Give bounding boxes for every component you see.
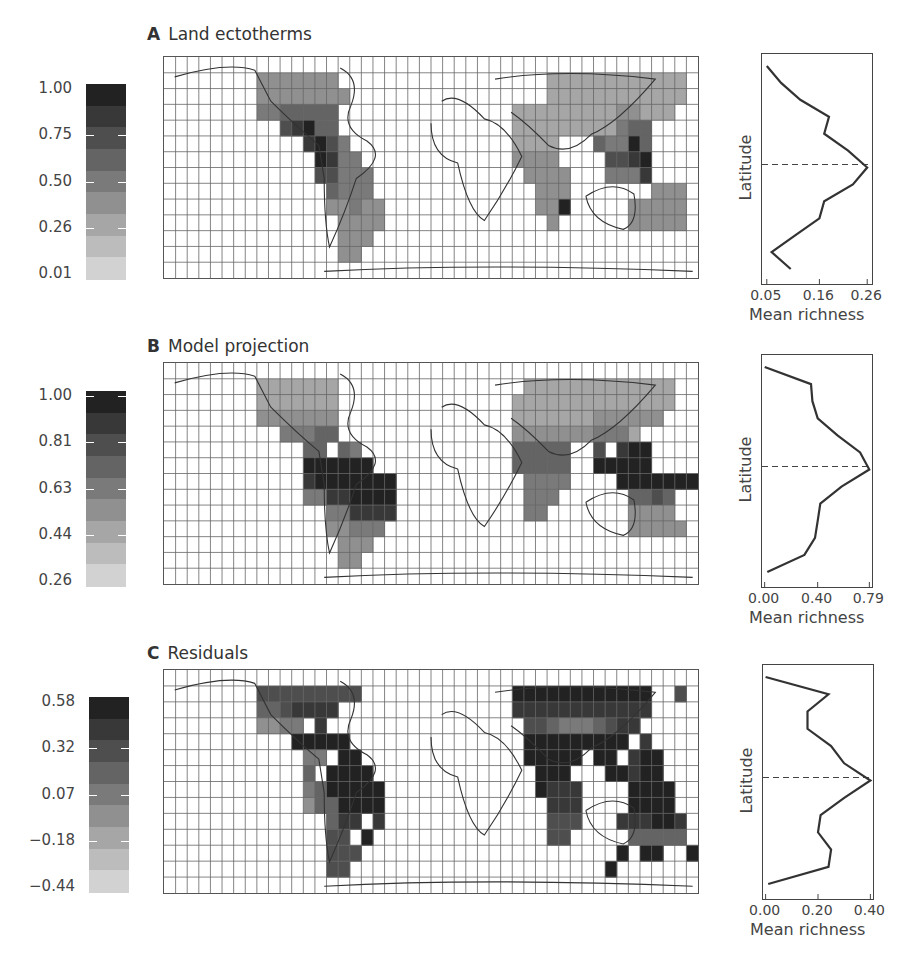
profile-x-tick-label: 0.00 bbox=[748, 590, 779, 606]
colorbar-swatch bbox=[86, 391, 126, 414]
panel-c-title-text: Residuals bbox=[167, 643, 248, 663]
profile-y-axis-label: Latitude bbox=[737, 748, 756, 814]
colorbar-swatch bbox=[89, 719, 129, 742]
colorbar-tick-label: 0.50 bbox=[12, 172, 72, 190]
profile-x-tick-label: 0.05 bbox=[750, 287, 781, 303]
colorbar-swatch bbox=[86, 434, 126, 457]
colorbar-tick bbox=[86, 535, 126, 536]
panel-c-map bbox=[163, 669, 699, 894]
panel-a-profile bbox=[761, 53, 873, 285]
panel-b-letter: B bbox=[147, 336, 160, 356]
colorbar-tick bbox=[89, 841, 129, 842]
colorbar-swatch bbox=[89, 762, 129, 785]
colorbar-swatch bbox=[86, 521, 126, 544]
colorbar-swatch bbox=[86, 192, 126, 215]
colorbar-tick-label: 0.26 bbox=[12, 571, 72, 589]
colorbar-swatch bbox=[89, 805, 129, 828]
colorbar-tick-label: 0.44 bbox=[12, 525, 72, 543]
colorbar-swatch bbox=[86, 84, 126, 107]
colorbar-swatch bbox=[86, 127, 126, 150]
profile-x-tick-label: 0.00 bbox=[749, 902, 780, 918]
colorbar-tick-label: 0.75 bbox=[12, 125, 72, 143]
profile-x-tick-label: 0.40 bbox=[854, 902, 885, 918]
profile-x-axis-label: Mean richness bbox=[749, 608, 864, 627]
profile-x-tick-label: 0.79 bbox=[853, 590, 884, 606]
panel-a-colorbar bbox=[86, 84, 126, 279]
colorbar-tick-label: 1.00 bbox=[12, 79, 72, 97]
colorbar-tick-label: 0.32 bbox=[15, 738, 75, 756]
panel-c-profile bbox=[762, 664, 874, 900]
colorbar-swatch bbox=[89, 740, 129, 763]
colorbar-swatch bbox=[86, 456, 126, 479]
colorbar-tick-label: 0.07 bbox=[15, 785, 75, 803]
colorbar-tick bbox=[86, 182, 126, 183]
colorbar-tick bbox=[86, 228, 126, 229]
panel-b-colorbar bbox=[86, 391, 126, 586]
colorbar-tick-label: 0.01 bbox=[12, 264, 72, 282]
panel-a-map bbox=[163, 56, 699, 279]
panel-a-title-text: Land ectotherms bbox=[168, 24, 312, 44]
colorbar-swatch bbox=[89, 849, 129, 872]
profile-x-tick-label: 0.16 bbox=[803, 287, 834, 303]
profile-x-tick-label: 0.40 bbox=[801, 590, 832, 606]
panel-b-profile bbox=[761, 354, 873, 588]
colorbar-swatch bbox=[86, 106, 126, 129]
colorbar-tick-label: 0.81 bbox=[12, 432, 72, 450]
colorbar-tick bbox=[86, 396, 126, 397]
colorbar-tick bbox=[89, 795, 129, 796]
colorbar-swatch bbox=[86, 499, 126, 522]
panel-c-colorbar bbox=[89, 697, 129, 892]
profile-x-tick-label: 0.20 bbox=[801, 902, 832, 918]
colorbar-swatch bbox=[89, 697, 129, 720]
panel-c-letter: C bbox=[147, 643, 159, 663]
panel-b-title-text: Model projection bbox=[168, 336, 309, 356]
colorbar-swatch bbox=[89, 870, 129, 893]
colorbar-swatch bbox=[86, 564, 126, 587]
panel-b-title: BModel projection bbox=[147, 336, 309, 356]
colorbar-tick bbox=[89, 748, 129, 749]
profile-x-axis-label: Mean richness bbox=[750, 920, 865, 939]
colorbar-swatch bbox=[86, 257, 126, 280]
panel-a-letter: A bbox=[147, 24, 160, 44]
colorbar-tick-label: 0.26 bbox=[12, 218, 72, 236]
profile-x-tick-label: 0.26 bbox=[851, 287, 882, 303]
colorbar-swatch bbox=[86, 543, 126, 566]
colorbar-tick bbox=[86, 489, 126, 490]
panel-c-title: CResiduals bbox=[147, 643, 248, 663]
colorbar-tick-label: 1.00 bbox=[12, 386, 72, 404]
colorbar-tick-label: −0.44 bbox=[15, 877, 75, 895]
colorbar-swatch bbox=[89, 827, 129, 850]
colorbar-tick-label: −0.18 bbox=[15, 831, 75, 849]
colorbar-tick bbox=[86, 442, 126, 443]
colorbar-tick-label: 0.58 bbox=[15, 692, 75, 710]
panel-a-title: ALand ectotherms bbox=[147, 24, 312, 44]
panel-b-map bbox=[163, 362, 699, 585]
profile-y-axis-label: Latitude bbox=[736, 437, 755, 503]
colorbar-tick bbox=[86, 135, 126, 136]
profile-x-axis-label: Mean richness bbox=[749, 305, 864, 324]
colorbar-swatch bbox=[86, 149, 126, 172]
colorbar-tick-label: 0.63 bbox=[12, 479, 72, 497]
profile-y-axis-label: Latitude bbox=[736, 135, 755, 201]
colorbar-swatch bbox=[86, 413, 126, 436]
colorbar-swatch bbox=[86, 236, 126, 259]
colorbar-swatch bbox=[86, 214, 126, 237]
